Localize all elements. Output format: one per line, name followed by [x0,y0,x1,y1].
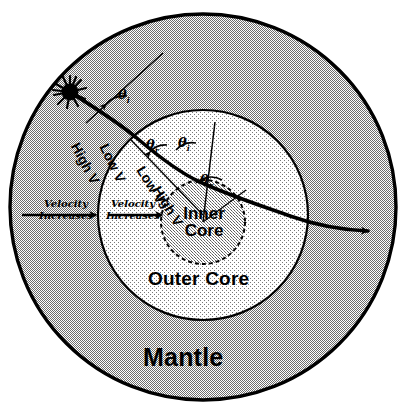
incident-angle-1-sub: i [127,95,130,105]
earth-cross-section-diagram: Mantle Outer Core Inner Core Velocity In… [0,0,407,414]
outer-core-label: Outer Core [148,268,249,290]
mantle-velocity-line1: Velocity [31,198,101,210]
incident-angle-2-symbol: θ [178,135,187,150]
outer-core-velocity-line2: Increases [101,210,165,222]
refracted-angle-2-symbol: θ [200,172,209,187]
incident-angle-2-label: θi [178,135,190,153]
refracted-angle-1-sub: r [155,145,159,155]
incident-angle-2-sub: i [187,143,190,153]
inner-core-label-line2: Core [174,222,234,239]
mantle-velocity-arrow-label: Velocity Increases [31,198,101,221]
mantle-velocity-line2: Increases [31,210,101,222]
refracted-angle-2-sub: r [209,180,213,190]
mantle-label: Mantle [143,343,223,372]
incident-angle-1-symbol: θ [118,87,127,102]
refracted-angle-1-label: θr [146,137,159,155]
refracted-angle-2-label: θr [200,172,213,190]
incident-angle-1-label: θi [118,87,130,105]
refracted-angle-1-symbol: θ [146,137,155,152]
